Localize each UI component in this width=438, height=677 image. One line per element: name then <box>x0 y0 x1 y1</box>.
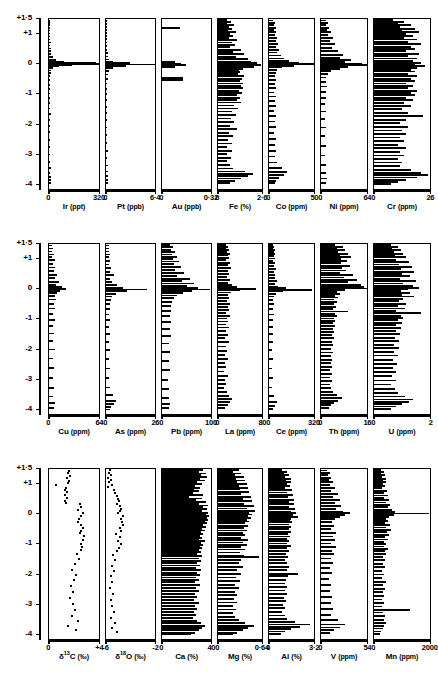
data-bar <box>49 349 54 351</box>
plot-panel-La <box>217 243 263 415</box>
y-axis-tick <box>36 33 40 34</box>
data-bar <box>374 183 391 185</box>
data-bar <box>269 174 283 176</box>
data-bar <box>321 484 329 486</box>
data-bar <box>218 594 237 596</box>
plot-panel-Ir <box>48 18 100 190</box>
data-bar <box>106 245 108 247</box>
data-bar <box>269 308 273 310</box>
x-axis-tick-label-min: 0 <box>318 419 322 427</box>
data-bar <box>374 628 382 630</box>
data-point <box>116 495 118 497</box>
panel-plot-area <box>218 469 261 638</box>
data-bar <box>106 400 116 402</box>
data-bar <box>162 608 197 610</box>
data-point <box>121 521 123 523</box>
x-axis-tick-label-min: 0 <box>371 194 375 202</box>
data-bar <box>218 569 237 571</box>
data-bar <box>321 543 331 545</box>
data-bar <box>49 245 51 247</box>
data-bar <box>321 145 325 147</box>
data-bar <box>218 143 232 145</box>
x-axis-title: Fe (%) <box>217 203 263 211</box>
x-axis-title: Cu (ppm) <box>48 428 100 436</box>
data-point <box>75 629 77 631</box>
data-bar <box>49 93 50 95</box>
plot-panel-Th <box>320 243 368 415</box>
data-bar <box>321 182 326 184</box>
data-bar <box>374 375 392 377</box>
data-bar <box>162 275 177 277</box>
data-bar <box>218 334 227 336</box>
data-bar <box>218 297 229 299</box>
x-axis-spine <box>105 415 156 417</box>
data-bar <box>218 111 232 113</box>
x-axis-title: Au (ppb) <box>161 203 212 211</box>
data-bar <box>374 595 384 597</box>
data-bar <box>49 172 50 174</box>
data-bar <box>321 384 330 386</box>
x-axis: 050 <box>268 190 315 198</box>
panel-plot-area <box>374 469 429 638</box>
y-axis-tick-label: -4 <box>0 630 32 638</box>
data-bar <box>218 383 226 385</box>
data-bar <box>218 146 227 148</box>
y-axis-tick <box>36 63 40 64</box>
data-bar <box>106 74 108 76</box>
data-bar <box>374 151 400 153</box>
data-bar <box>321 373 331 375</box>
data-bar <box>162 360 168 362</box>
data-point <box>80 524 82 526</box>
data-bar <box>106 303 110 305</box>
data-bar <box>374 105 410 107</box>
x-axis-title: Al (%) <box>268 653 315 661</box>
data-bar <box>218 387 224 389</box>
x-axis-spine <box>373 640 431 642</box>
data-bar <box>106 403 113 405</box>
data-bar <box>49 248 53 250</box>
data-bar <box>321 34 328 36</box>
y-axis-tick <box>36 93 40 94</box>
data-bar <box>218 358 228 360</box>
data-bar <box>321 81 325 83</box>
data-bar <box>49 36 50 38</box>
data-bar <box>49 139 50 141</box>
data-bar <box>162 301 172 303</box>
data-bar <box>49 84 50 86</box>
data-bar <box>106 256 109 258</box>
data-bar <box>374 622 386 624</box>
data-bar <box>269 37 277 39</box>
data-bar <box>49 274 57 276</box>
data-bar <box>218 362 225 364</box>
y-axis-tick-label: -2 <box>0 120 32 128</box>
data-bar <box>374 324 396 326</box>
data-bar <box>218 157 231 159</box>
x-axis-tick-label-max: 64 <box>363 194 371 202</box>
data-point <box>112 554 114 556</box>
x-axis-spine <box>373 190 431 192</box>
data-bar <box>321 91 325 93</box>
data-bar <box>321 337 333 339</box>
data-bar <box>374 563 382 565</box>
data-bar <box>321 546 335 548</box>
data-bar <box>106 35 107 37</box>
data-point <box>111 605 113 607</box>
data-bar <box>106 99 107 101</box>
plot-panel-Pb <box>161 243 212 415</box>
data-bar <box>269 575 288 577</box>
data-bar <box>321 172 325 174</box>
data-bar <box>321 578 329 580</box>
data-bar <box>269 583 285 585</box>
data-bar <box>49 161 50 163</box>
x-axis-spine <box>217 640 263 642</box>
data-point <box>65 502 67 504</box>
data-bar <box>321 86 327 88</box>
data-bar <box>269 271 274 273</box>
x-axis: 040 <box>161 640 212 648</box>
data-point <box>110 474 112 476</box>
y-axis-tick <box>36 318 40 319</box>
data-bar <box>269 87 275 89</box>
y-axis-tick-label: -4 <box>0 180 32 188</box>
data-bar <box>321 629 334 631</box>
panel-plot-area <box>218 19 261 188</box>
